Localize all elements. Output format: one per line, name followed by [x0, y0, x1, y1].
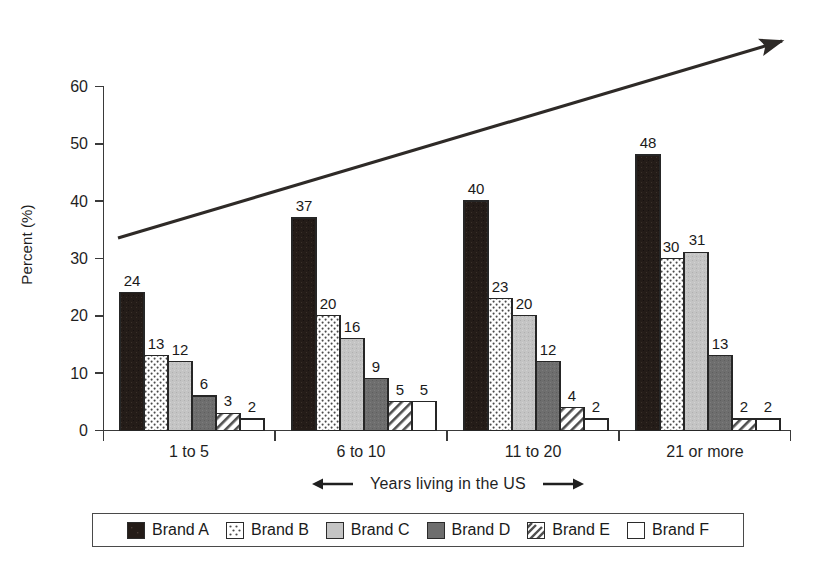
bar-brand-b — [488, 298, 512, 430]
value-label: 20 — [510, 296, 538, 311]
legend-item-brand-d[interactable]: Brand D — [427, 521, 511, 539]
legend-item-brand-f[interactable]: Brand F — [627, 521, 709, 539]
legend-swatch-brand-c — [326, 522, 344, 539]
bar-brand-a — [292, 218, 316, 431]
value-label: 20 — [314, 296, 342, 311]
legend-label: Brand B — [251, 521, 309, 539]
legend-label: Brand D — [452, 521, 511, 539]
legend-item-brand-e[interactable]: Brand E — [527, 521, 610, 539]
value-label: 5 — [412, 382, 436, 397]
x-tick-label-21-or-more: 21 or more — [620, 444, 790, 460]
value-label: 2 — [240, 399, 264, 414]
legend-item-brand-a[interactable]: Brand A — [127, 521, 209, 539]
legend-label: Brand E — [552, 521, 610, 539]
value-label: 3 — [216, 393, 240, 408]
right-arrow-icon — [542, 476, 586, 492]
x-axis — [104, 431, 792, 442]
x-tick-label-1-to-5: 1 to 5 — [104, 444, 274, 460]
bar-group-11-to-20 — [464, 201, 608, 431]
value-label: 13 — [708, 336, 732, 351]
value-label: 2 — [756, 399, 780, 414]
chart-canvas — [0, 0, 828, 582]
value-label: 30 — [657, 239, 685, 254]
bar-brand-d — [364, 379, 388, 431]
bar-brand-f — [584, 419, 608, 431]
value-label: 2 — [584, 399, 608, 414]
bar-brand-e — [560, 408, 584, 431]
bar-chart: 60 50 40 30 20 10 0 Percent (%) 24 13 12… — [0, 0, 828, 582]
legend-label: Brand F — [652, 521, 709, 539]
bar-brand-b — [660, 258, 684, 430]
bar-brand-f — [756, 419, 780, 431]
legend-item-brand-c[interactable]: Brand C — [326, 521, 410, 539]
bar-brand-d — [708, 356, 732, 431]
bar-brand-f — [240, 419, 264, 431]
legend-swatch-brand-d — [427, 522, 445, 539]
value-label: 12 — [166, 342, 194, 357]
y-tick-label-0: 0 — [44, 423, 88, 439]
bar-group-21-or-more — [636, 155, 780, 431]
legend-swatch-brand-b — [226, 522, 244, 539]
bar-brand-a — [636, 155, 660, 431]
bar-brand-e — [388, 402, 412, 431]
y-tick-label-30: 30 — [44, 251, 88, 267]
bar-brand-d — [192, 396, 216, 431]
chart-legend: Brand A Brand B — [92, 513, 744, 547]
value-label: 31 — [683, 232, 711, 247]
legend-swatch-brand-f — [627, 522, 645, 539]
y-tick-label-20: 20 — [44, 308, 88, 324]
bar-brand-b — [316, 316, 340, 431]
bar-brand-a — [120, 293, 144, 431]
bar-brand-b — [144, 356, 168, 431]
value-label: 16 — [338, 319, 366, 334]
trend-arrow-annotation — [118, 41, 782, 238]
value-label: 5 — [388, 382, 412, 397]
value-label: 2 — [732, 399, 756, 414]
bar-series-group — [120, 155, 780, 431]
legend-swatch-brand-a — [127, 522, 145, 539]
value-label: 4 — [560, 388, 584, 403]
bar-brand-d — [536, 362, 560, 431]
value-label: 37 — [290, 198, 318, 213]
x-tick-label-6-to-10: 6 to 10 — [276, 444, 446, 460]
y-tick-label-10: 10 — [44, 366, 88, 382]
y-axis — [95, 86, 104, 431]
legend-swatch-brand-e — [527, 522, 545, 539]
legend-label: Brand A — [152, 521, 209, 539]
x-axis-title-text: Years living in the US — [370, 475, 526, 493]
value-label: 23 — [486, 279, 514, 294]
bar-brand-a — [464, 201, 488, 431]
bar-brand-c — [340, 339, 364, 431]
bar-brand-e — [216, 413, 240, 430]
value-label: 40 — [462, 181, 490, 196]
bar-brand-c — [168, 362, 192, 431]
y-tick-label-50: 50 — [44, 136, 88, 152]
bar-brand-c — [512, 316, 536, 431]
y-tick-label-60: 60 — [44, 79, 88, 95]
bar-brand-e — [732, 419, 756, 431]
value-label: 12 — [534, 342, 562, 357]
bar-brand-f — [412, 402, 436, 431]
value-label: 6 — [192, 376, 216, 391]
bar-brand-c — [684, 252, 708, 430]
y-tick-label-40: 40 — [44, 194, 88, 210]
value-label: 24 — [118, 273, 146, 288]
y-axis-title: Percent (%) — [18, 175, 35, 315]
value-label: 48 — [634, 135, 662, 150]
left-arrow-icon — [310, 476, 354, 492]
legend-label: Brand C — [351, 521, 410, 539]
value-label: 9 — [364, 359, 388, 374]
x-tick-label-11-to-20: 11 to 20 — [448, 444, 618, 460]
x-axis-title: Years living in the US — [103, 475, 793, 493]
legend-item-brand-b[interactable]: Brand B — [226, 521, 309, 539]
